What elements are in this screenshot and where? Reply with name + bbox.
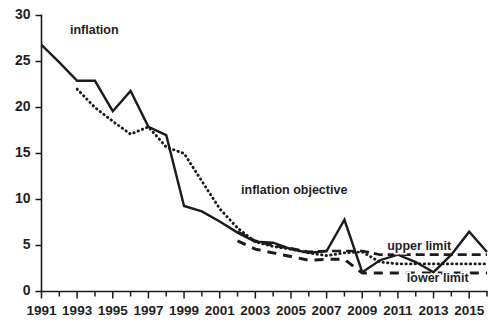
x-tick-label: 1997	[133, 303, 163, 318]
x-tick-labels: 1991199319951997199920012003200520072009…	[26, 303, 484, 318]
y-tick-marks	[36, 16, 42, 292]
y-tick-label: 25	[15, 52, 31, 68]
x-axis-group: 1991199319951997199920012003200520072009…	[26, 292, 487, 318]
x-tick-label: 2011	[383, 303, 413, 318]
y-tick-labels: 051015202530	[15, 6, 31, 298]
x-tick-label: 1991	[26, 303, 57, 318]
x-tick-label: 1995	[98, 303, 129, 318]
annotation-lower-limit: lower limit	[407, 271, 470, 285]
annotation-inflation-objective: inflation objective	[241, 183, 347, 197]
chart-canvas: 051015202530 199119931995199719992001200…	[0, 0, 492, 324]
x-tick-label: 1999	[169, 303, 199, 318]
x-tick-label: 2007	[312, 303, 342, 318]
annotation-inflation: inflation	[70, 23, 119, 37]
y-tick-label: 5	[23, 236, 31, 252]
x-tick-label: 2015	[454, 303, 485, 318]
y-tick-label: 0	[23, 282, 31, 298]
x-tick-label: 2005	[276, 303, 307, 318]
x-tick-label: 2013	[419, 303, 450, 318]
x-tick-label: 2003	[240, 303, 271, 318]
x-tick-label: 2001	[205, 303, 236, 318]
annotation-upper-limit: upper limit	[387, 239, 452, 253]
x-tick-label: 1993	[62, 303, 93, 318]
x-tick-marks	[42, 292, 488, 299]
y-tick-label: 20	[15, 98, 31, 114]
y-tick-label: 10	[15, 190, 31, 206]
inflation-chart: 051015202530 199119931995199719992001200…	[0, 0, 492, 324]
y-tick-label: 30	[15, 6, 31, 22]
x-tick-label: 2009	[347, 303, 377, 318]
y-tick-label: 15	[15, 144, 31, 160]
y-axis-group: 051015202530	[15, 6, 42, 298]
